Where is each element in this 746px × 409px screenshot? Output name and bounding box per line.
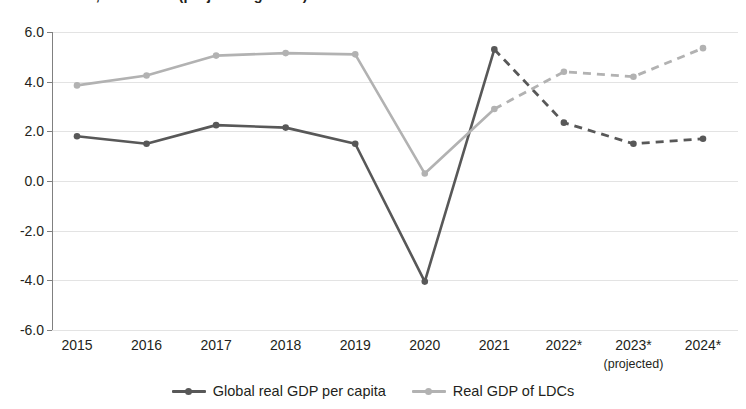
x-axis-tick-label: 2024* bbox=[685, 337, 722, 353]
x-axis-tick-label: 2015 bbox=[61, 337, 92, 353]
data-point-marker bbox=[561, 119, 568, 126]
legend-item[interactable]: Real GDP of LDCs bbox=[412, 383, 574, 399]
series-line-solid bbox=[77, 53, 494, 173]
legend-label: Global real GDP per capita bbox=[213, 383, 386, 399]
data-point-marker bbox=[352, 51, 359, 58]
data-point-marker bbox=[282, 124, 289, 131]
data-point-marker bbox=[421, 278, 428, 285]
legend-swatch-icon bbox=[412, 385, 446, 397]
data-point-marker bbox=[561, 68, 568, 75]
legend-label: Real GDP of LDCs bbox=[453, 383, 574, 399]
x-axis-tick-label: 2016 bbox=[131, 337, 162, 353]
data-point-marker bbox=[143, 72, 150, 79]
data-point-marker bbox=[421, 170, 428, 177]
data-point-marker bbox=[143, 140, 150, 147]
data-point-marker bbox=[74, 133, 81, 140]
gdp-line-chart: GDP of LDCs, 2015-2024 (projected growth… bbox=[0, 0, 746, 409]
x-axis-tick-label: 2018 bbox=[270, 337, 301, 353]
data-point-marker bbox=[630, 73, 637, 80]
x-axis-tick-label: 2021 bbox=[479, 337, 510, 353]
data-point-marker bbox=[630, 140, 637, 147]
data-point-marker bbox=[491, 106, 498, 113]
data-point-marker bbox=[213, 52, 220, 59]
data-point-marker bbox=[700, 135, 707, 142]
data-point-marker bbox=[282, 50, 289, 57]
legend-swatch-icon bbox=[172, 385, 206, 397]
projected-note: (projected) bbox=[604, 357, 664, 371]
data-point-marker bbox=[700, 45, 707, 52]
data-point-marker bbox=[352, 140, 359, 147]
x-axis-tick-label: 2023* bbox=[615, 337, 652, 353]
x-axis-tick-label: 2019 bbox=[340, 337, 371, 353]
series-line-projected bbox=[494, 49, 703, 143]
chart-legend: Global real GDP per capitaReal GDP of LD… bbox=[0, 383, 746, 399]
x-axis-tick-label: 2020 bbox=[409, 337, 440, 353]
data-point-marker bbox=[491, 46, 498, 53]
legend-item[interactable]: Global real GDP per capita bbox=[172, 383, 386, 399]
data-point-marker bbox=[74, 82, 81, 89]
x-axis-tick-label: 2022* bbox=[546, 337, 583, 353]
x-axis-tick-label: 2017 bbox=[201, 337, 232, 353]
data-point-marker bbox=[213, 122, 220, 129]
series-line-projected bbox=[494, 48, 703, 109]
